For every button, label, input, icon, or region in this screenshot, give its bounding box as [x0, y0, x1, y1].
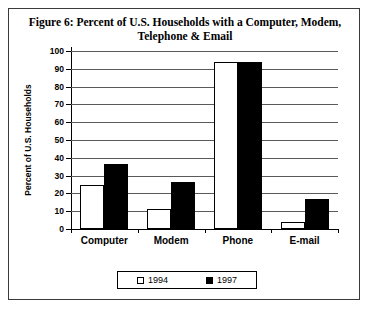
bar-e-mail-1997 — [305, 199, 329, 229]
y-axis-tick — [66, 176, 71, 177]
x-axis-tick — [205, 229, 206, 233]
legend-entry-1997: 1997 — [206, 275, 237, 285]
gridline — [71, 122, 338, 123]
bar-computer-1997 — [104, 164, 128, 229]
y-axis-tick — [66, 193, 71, 194]
y-axis-tick-label: 20 — [55, 188, 64, 198]
legend-entry-1994: 1994 — [137, 275, 168, 285]
y-axis-title: Percent of U.S. Households — [23, 51, 35, 229]
gridline — [71, 140, 338, 141]
gridline — [71, 69, 338, 70]
y-axis-tick-label: 70 — [55, 99, 64, 109]
x-axis-tick — [138, 229, 139, 233]
bar-phone-1997 — [238, 62, 262, 229]
plot-area: 0102030405060708090100 ComputerModemPhon… — [71, 51, 338, 229]
y-axis-tick — [66, 211, 71, 212]
bar-phone-1994 — [214, 62, 238, 229]
y-axis-tick-label: 10 — [55, 206, 64, 216]
y-axis-tick — [66, 87, 71, 88]
y-axis-tick-label: 40 — [55, 153, 64, 163]
y-axis-tick — [66, 158, 71, 159]
y-axis-tick — [66, 51, 71, 52]
figure-frame: Figure 6: Percent of U.S. Households wit… — [8, 8, 360, 300]
gridline — [71, 158, 338, 159]
y-axis-line — [71, 47, 72, 229]
y-axis-tick-label: 30 — [55, 171, 64, 181]
bar-e-mail-1994 — [281, 222, 305, 229]
x-axis-label-phone: Phone — [223, 235, 254, 246]
legend-label-1997: 1997 — [217, 275, 237, 285]
legend-swatch-1994 — [137, 277, 144, 284]
x-axis-tick — [271, 229, 272, 233]
x-axis-label-e-mail: E-mail — [290, 235, 320, 246]
legend-swatch-1997 — [206, 277, 213, 284]
x-axis-tick — [71, 229, 72, 233]
gridline — [71, 87, 338, 88]
y-axis-tick — [66, 140, 71, 141]
y-axis-tick — [66, 104, 71, 105]
y-axis-tick — [66, 69, 71, 70]
y-axis-tick-label: 60 — [55, 117, 64, 127]
x-axis-label-computer: Computer — [81, 235, 128, 246]
y-axis-tick — [66, 122, 71, 123]
bar-modem-1994 — [147, 209, 171, 229]
x-axis-tick — [338, 229, 339, 233]
y-axis-tick-label: 50 — [55, 135, 64, 145]
chart-legend: 19941997 — [117, 271, 257, 289]
y-axis-tick-label: 100 — [50, 46, 64, 56]
bar-modem-1997 — [171, 182, 195, 229]
y-axis-tick-label: 90 — [55, 64, 64, 74]
x-axis-label-modem: Modem — [154, 235, 189, 246]
bar-computer-1994 — [80, 185, 104, 229]
gridline — [71, 51, 338, 52]
gridline — [71, 104, 338, 105]
legend-label-1994: 1994 — [148, 275, 168, 285]
y-axis-tick-label: 80 — [55, 82, 64, 92]
figure-title: Figure 6: Percent of U.S. Households wit… — [23, 15, 347, 43]
y-axis-tick-label: 0 — [59, 224, 64, 234]
